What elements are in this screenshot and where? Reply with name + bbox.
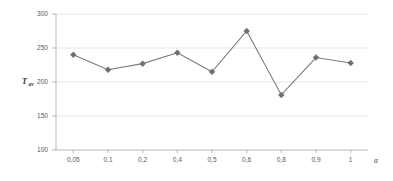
xtick-label-2: 0,2 — [138, 156, 147, 163]
xtick-label-1: 0,1 — [103, 156, 112, 163]
xtick-label-7: 0,9 — [311, 156, 320, 163]
ytick-label-200: 200 — [37, 78, 48, 85]
line-chart: 300 250 200 150 100 0,05 0,1 0,2 0,4 0,5… — [0, 0, 393, 181]
xtick-label-0: 0,05 — [67, 156, 80, 163]
y-axis-title-subscript: av — [29, 81, 35, 87]
xtick-label-3: 0,4 — [173, 156, 182, 163]
ytick-label-300: 300 — [37, 10, 48, 17]
chart-figure: 300 250 200 150 100 0,05 0,1 0,2 0,4 0,5… — [0, 0, 393, 181]
xtick-label-4: 0,5 — [207, 156, 216, 163]
xtick-label-8: 1 — [349, 156, 353, 163]
chart-background — [0, 0, 393, 181]
xtick-label-6: 0,8 — [277, 156, 286, 163]
xtick-label-5: 0,6 — [242, 156, 251, 163]
ytick-label-150: 150 — [37, 112, 48, 119]
ytick-label-250: 250 — [37, 44, 48, 51]
ytick-label-100: 100 — [37, 146, 48, 153]
